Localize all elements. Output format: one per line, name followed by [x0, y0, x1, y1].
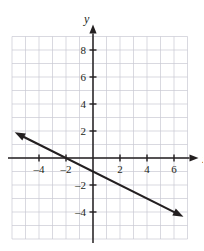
linear-function-line: [21, 136, 176, 214]
y-tick-label: 4: [81, 98, 87, 110]
x-tick-label: 6: [171, 163, 177, 175]
graph-svg: –4–2246–4–22468 x y: [0, 0, 203, 251]
y-axis-label: y: [83, 12, 90, 26]
y-tick-label: 2: [81, 125, 87, 137]
x-tick-label: –2: [60, 163, 72, 175]
y-axis-arrowhead-icon: [89, 25, 96, 34]
x-axis-arrowhead-icon: [190, 154, 199, 161]
y-tick-label: –2: [74, 179, 86, 191]
x-axis-label: x: [202, 152, 204, 166]
grid-lines: [12, 37, 188, 240]
y-tick-label: 8: [81, 44, 87, 56]
coordinate-plane-graph: –4–2246–4–22468 x y: [0, 0, 203, 251]
line-arrowhead-start-icon: [15, 132, 26, 140]
x-tick-label: –4: [33, 163, 46, 175]
y-tick-label: 6: [81, 71, 87, 83]
x-tick-label: 4: [144, 163, 150, 175]
y-tick-label: –4: [74, 206, 87, 218]
x-tick-label: 2: [117, 163, 123, 175]
